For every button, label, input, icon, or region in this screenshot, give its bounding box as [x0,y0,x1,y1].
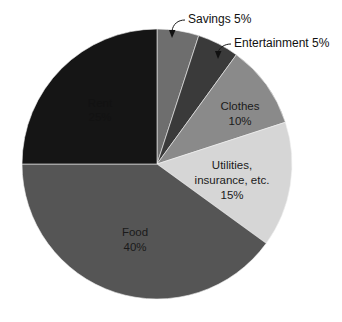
pie-label-utilities-value: 15% [220,189,243,201]
pie-callout-entertainment: Entertainment 5% [234,36,330,50]
pie-label-rent-value: 25% [88,111,111,123]
pie-label-food-name: Food [122,226,148,238]
pie-callout-savings: Savings 5% [188,12,252,26]
pie-label-clothes-value: 10% [228,115,251,127]
pie-label-rent-name: Rent [88,97,113,109]
pie-label-utilities-line1: Utilities, [212,159,252,171]
pie-label-clothes-name: Clothes [221,100,260,112]
pie-chart-figure: Rent 25% Clothes 10% Utilities, insuranc… [0,0,342,322]
pie-chart-svg: Rent 25% Clothes 10% Utilities, insuranc… [0,0,342,322]
pie-label-food-value: 40% [123,241,146,253]
pie-label-utilities-line2: insurance, etc. [195,174,270,186]
